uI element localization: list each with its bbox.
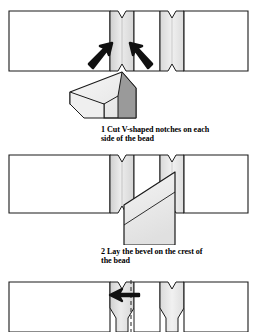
board-right-segment xyxy=(184,11,248,71)
bead-crest xyxy=(134,282,160,332)
board-left-segment xyxy=(9,155,110,213)
chisel-tool-step1 xyxy=(70,72,136,118)
illustration-stage: 1 Cut V-shaped notches on each side of t… xyxy=(0,0,256,332)
notch-group-1 xyxy=(110,11,134,71)
caption-step-1: 1 Cut V-shaped notches on each side of t… xyxy=(101,125,251,144)
notch-group-2 xyxy=(160,282,184,332)
panel-notching xyxy=(0,0,256,125)
board-right-segment xyxy=(184,282,248,332)
board-left-segment xyxy=(9,282,110,332)
notch-group-2 xyxy=(160,11,184,71)
panel-bevel xyxy=(0,150,256,245)
figure-step-2 xyxy=(0,150,256,245)
board-right-segment xyxy=(184,155,248,213)
figure-step-1 xyxy=(0,0,256,125)
caption-step-2: 2 Lay the bevel on the crest of the bead xyxy=(101,247,251,266)
figure-step-3 xyxy=(0,278,256,332)
panel-rounding xyxy=(0,278,256,332)
